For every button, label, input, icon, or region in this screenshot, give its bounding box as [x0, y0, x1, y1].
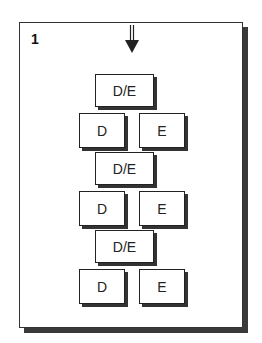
d-box: D: [79, 269, 125, 304]
e-box: E: [139, 113, 185, 148]
panel-frame: 1 D/E D E D/E D E D/E D E: [19, 22, 243, 328]
de-box: D/E: [95, 230, 154, 263]
e-box: E: [139, 269, 185, 304]
d-box: D: [79, 113, 125, 148]
panel-number: 1: [31, 31, 39, 47]
e-box: E: [139, 191, 185, 226]
d-box: D: [79, 191, 125, 226]
de-box: D/E: [95, 152, 154, 185]
down-arrow-icon: [124, 25, 140, 53]
de-box: D/E: [95, 74, 154, 107]
